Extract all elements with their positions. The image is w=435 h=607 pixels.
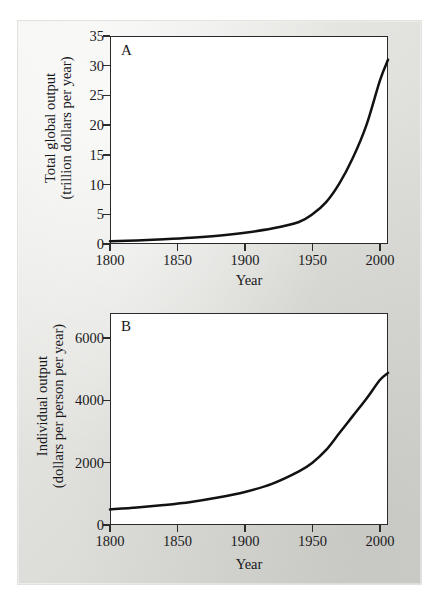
data-line [110,373,388,510]
data-curve-b [0,0,435,607]
figure-container: A 05101520253035 18001850190019502000 To… [0,0,435,607]
